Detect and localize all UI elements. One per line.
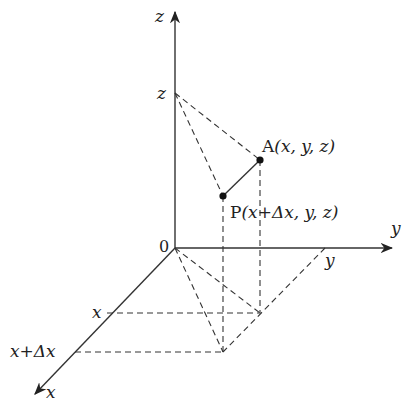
x-axis-label: x	[46, 382, 56, 402]
point-a	[256, 156, 263, 163]
z-axis-label: z	[154, 6, 165, 26]
y-tick-label: y	[324, 250, 335, 270]
x-axis	[35, 248, 175, 394]
z-tick-label: z	[156, 83, 167, 103]
point-a-label: A(x, y, z)	[261, 136, 335, 156]
x-dx-tick-label: x+Δx	[10, 341, 56, 361]
y-axis-label: y	[390, 218, 401, 238]
x-tick-label: x	[92, 302, 102, 322]
point-p-label: P(x+Δx, y, z)	[230, 202, 338, 222]
origin-label: 0	[159, 237, 169, 256]
coordinate-diagram: z y x 0 z y x x+Δx A(x, y, z) P(x+Δx, y,…	[0, 0, 409, 408]
point-p	[219, 192, 226, 199]
segment-ap	[223, 160, 260, 196]
construction-lines	[75, 93, 325, 352]
